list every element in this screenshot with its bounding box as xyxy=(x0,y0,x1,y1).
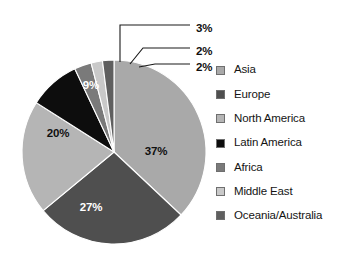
legend-swatch-icon-africa xyxy=(216,163,225,172)
legend-swatch-icon-asia xyxy=(216,66,225,75)
callout-leader-middle-east xyxy=(130,48,190,64)
legend-item-europe[interactable]: Europe xyxy=(216,82,345,106)
legend-label-middle-east: Middle East xyxy=(234,186,292,198)
legend-label-oceania-australia: Oceania/Australia xyxy=(234,210,322,222)
pie-slice-group xyxy=(22,60,206,244)
legend-swatch-icon-north-america xyxy=(216,114,225,123)
legend-label-asia: Asia xyxy=(234,64,256,76)
slice-value-label-latin-america: 9% xyxy=(83,79,99,91)
legend-item-latin-america[interactable]: Latin America xyxy=(216,131,345,155)
pie-chart-figure: 37%27%20%9% 3%2%2% AsiaEuropeNorth Ameri… xyxy=(0,0,345,261)
callout-leader-group xyxy=(120,25,190,67)
legend-label-latin-america: Latin America xyxy=(234,137,302,149)
slice-value-label-europe: 27% xyxy=(80,201,103,213)
slice-value-label-asia: 37% xyxy=(145,145,168,157)
callout-value-label-africa: 3% xyxy=(196,22,212,34)
legend-item-middle-east[interactable]: Middle East xyxy=(216,179,345,203)
callout-leader-africa xyxy=(120,25,190,62)
legend-item-africa[interactable]: Africa xyxy=(216,155,345,179)
slice-value-label-north-america: 20% xyxy=(47,127,70,139)
callout-value-label-middle-east: 2% xyxy=(196,45,212,57)
legend-label-africa: Africa xyxy=(234,162,263,174)
legend-item-oceania-australia[interactable]: Oceania/Australia xyxy=(216,204,345,228)
legend-swatch-icon-europe xyxy=(216,90,225,99)
callout-value-label-oceania: 2% xyxy=(196,61,212,73)
legend-item-north-america[interactable]: North America xyxy=(216,107,345,131)
callout-value-label-group: 3%2%2% xyxy=(196,22,212,73)
legend-label-north-america: North America xyxy=(234,113,305,125)
legend-swatch-icon-middle-east xyxy=(216,187,225,196)
legend-label-europe: Europe xyxy=(234,89,270,101)
chart-legend: AsiaEuropeNorth AmericaLatin AmericaAfri… xyxy=(216,58,345,228)
legend-swatch-icon-latin-america xyxy=(216,139,225,148)
legend-item-asia[interactable]: Asia xyxy=(216,58,345,82)
legend-swatch-icon-oceania-australia xyxy=(216,211,225,220)
